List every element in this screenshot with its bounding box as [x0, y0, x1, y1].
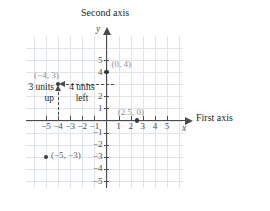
- y-axis-tick-label: 5: [89, 56, 103, 65]
- plotted-point: [104, 70, 108, 74]
- annotation-up-line-1: 3 units: [8, 82, 54, 93]
- y-axis-tick-label: −2: [89, 140, 103, 149]
- y-axis-tick-label: 4: [89, 68, 103, 77]
- y-axis-tick: [104, 133, 109, 134]
- gridline-vertical: [46, 36, 47, 188]
- y-axis-tick-label: −5: [89, 177, 103, 186]
- y-axis-tick-label: −1: [89, 128, 103, 137]
- y-axis-line: [106, 34, 107, 188]
- annotation-left-line-1: 4 units: [56, 82, 108, 93]
- point-label: (−4, 3): [34, 71, 59, 80]
- point-label: (−5, −3): [51, 151, 81, 160]
- annotation-up-line-2: up: [8, 93, 54, 104]
- y-axis-tick: [104, 145, 109, 146]
- y-axis-tick: [104, 60, 109, 61]
- y-axis-tick-label: 1: [89, 104, 103, 113]
- gridline-vertical: [82, 36, 83, 188]
- x-axis-variable-label: x: [182, 124, 186, 134]
- y-axis-arrow-icon: [103, 27, 111, 35]
- point-label: (0, 4): [112, 60, 132, 69]
- annotation-3-units-up: 3 units up: [8, 82, 54, 103]
- y-axis-tick: [104, 157, 109, 158]
- gridline-vertical: [70, 36, 71, 188]
- gridline-vertical: [179, 36, 180, 188]
- grid: [26, 36, 183, 188]
- y-axis-tick: [104, 108, 109, 109]
- point-label: (2.5, 0): [118, 108, 144, 117]
- gridline-vertical: [155, 36, 156, 188]
- plotted-point: [44, 155, 48, 159]
- first-axis-title: First axis: [196, 113, 233, 123]
- gridline-horizontal: [26, 48, 183, 49]
- plotted-point: [135, 118, 139, 122]
- annotation-left-line-2: left: [56, 93, 108, 104]
- y-axis-variable-label: y: [96, 25, 100, 35]
- x-axis-tick-label: 5: [159, 122, 175, 131]
- annotation-4-units-left: 4 units left: [56, 82, 108, 103]
- gridline-vertical: [34, 36, 35, 188]
- y-axis-tick-label: −3: [89, 152, 103, 161]
- coordinate-plane-figure: −5−4−3−2−1123455421−1−2−3−4−5 Second axi…: [0, 0, 270, 211]
- y-axis-tick-label: −4: [89, 164, 103, 173]
- second-axis-title: Second axis: [81, 8, 129, 18]
- y-axis-tick: [104, 181, 109, 182]
- y-axis-tick: [104, 169, 109, 170]
- gridline-vertical: [167, 36, 168, 188]
